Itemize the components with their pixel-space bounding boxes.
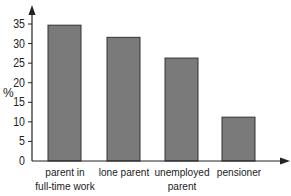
y-tick-label: 5: [6, 135, 25, 147]
y-axis-arrow-icon: [29, 5, 36, 15]
y-tick-label: 30: [6, 38, 25, 50]
y-tick-label: 10: [6, 116, 25, 128]
y-tick-label: 0: [6, 155, 25, 167]
y-axis-label: %: [3, 86, 14, 100]
bar-2: [165, 58, 198, 161]
bar-0: [48, 25, 81, 161]
bar-3: [222, 117, 255, 161]
y-tick-label: 25: [6, 57, 25, 69]
bars-group: [48, 25, 255, 161]
x-axis-arrow-icon: [280, 158, 290, 165]
y-tick-label: 35: [6, 18, 25, 30]
bar-1: [107, 37, 140, 161]
category-label: pensioner: [203, 165, 273, 179]
